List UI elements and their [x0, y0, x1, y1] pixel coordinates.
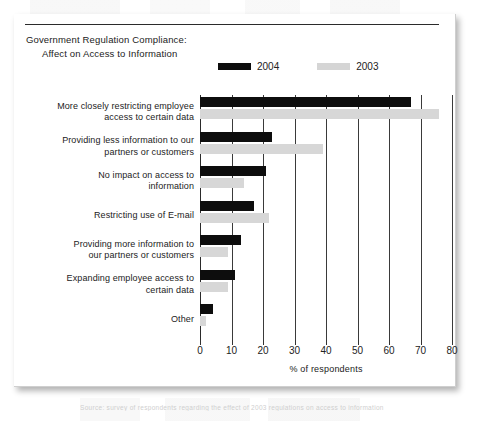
bar-2003-5 [200, 282, 228, 292]
x-axis-title: % of respondents [200, 364, 452, 374]
tick-label-80: 80 [446, 345, 457, 356]
bar-group-4 [200, 233, 452, 268]
bar-group-5 [200, 268, 452, 303]
plot-area: More closely restricting employeeaccess … [14, 14, 455, 386]
category-label-text: More closely restricting employeeaccess … [57, 101, 194, 124]
gridline-80 [452, 95, 453, 340]
bar-2003-4 [200, 247, 228, 257]
tick-label-30: 30 [289, 345, 300, 356]
bar-group-3 [200, 199, 452, 234]
tick-label-0: 0 [197, 345, 203, 356]
chart-page: Government Regulation Compliance: Affect… [14, 14, 456, 387]
x-axis-tick-labels: 01020304050607080 [200, 345, 452, 359]
bar-2003-6 [200, 316, 206, 326]
bar-2004-2 [200, 166, 266, 176]
category-label-text: Other [171, 314, 194, 326]
category-label-text: No impact on access toinformation [98, 170, 194, 193]
bar-2004-6 [200, 304, 213, 314]
category-label-6: Other [20, 302, 194, 337]
tick-label-20: 20 [257, 345, 268, 356]
bar-2004-4 [200, 235, 241, 245]
tick-label-40: 40 [320, 345, 331, 356]
tick-label-70: 70 [415, 345, 426, 356]
category-label-5: Expanding employee access tocertain data [20, 268, 194, 303]
bar-2003-1 [200, 144, 323, 154]
category-label-1: Providing less information to ourpartner… [20, 130, 194, 165]
tick-label-60: 60 [383, 345, 394, 356]
bar-group-0 [200, 95, 452, 130]
category-label-text: Providing more information toour partner… [74, 239, 194, 262]
bar-2004-0 [200, 97, 411, 107]
category-label-3: Restricting use of E-mail [20, 199, 194, 234]
figure-caption: Source: survey of respondents regarding … [80, 404, 440, 411]
category-label-2: No impact on access toinformation [20, 164, 194, 199]
bar-2003-2 [200, 178, 244, 188]
bar-2004-1 [200, 132, 272, 142]
bar-2004-3 [200, 201, 254, 211]
category-axis-labels: More closely restricting employeeaccess … [20, 95, 194, 337]
bar-group-1 [200, 130, 452, 165]
bar-2003-0 [200, 109, 439, 119]
bar-group-2 [200, 164, 452, 199]
bar-2003-3 [200, 213, 269, 223]
category-label-text: Providing less information to ourpartner… [62, 135, 194, 158]
bar-2004-5 [200, 270, 235, 280]
bar-series-container [200, 95, 452, 340]
category-label-0: More closely restricting employeeaccess … [20, 95, 194, 130]
category-label-4: Providing more information toour partner… [20, 233, 194, 268]
bar-group-6 [200, 302, 452, 337]
category-label-text: Restricting use of E-mail [94, 210, 194, 222]
tick-label-50: 50 [352, 345, 363, 356]
category-label-text: Expanding employee access tocertain data [67, 273, 194, 296]
tick-label-10: 10 [226, 345, 237, 356]
